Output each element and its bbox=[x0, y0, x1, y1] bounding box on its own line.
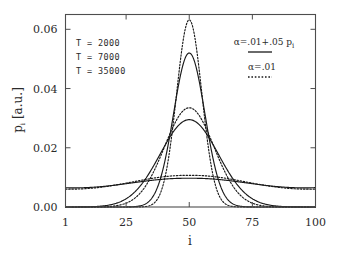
x-tick-label: 25 bbox=[119, 216, 133, 229]
plot-canvas: 0.000.020.040.06 1255075100 pi [a.u.] i … bbox=[0, 0, 345, 256]
annotation-t-7000: T = 7000 bbox=[76, 52, 120, 62]
svg-text:pi [a.u.]: pi [a.u.] bbox=[11, 87, 27, 133]
x-tick-label: 1 bbox=[62, 216, 69, 229]
x-axis-title: i bbox=[188, 234, 192, 248]
temperature-annotation-group: T = 2000 T = 7000 T = 35000 bbox=[76, 38, 126, 76]
x-tick-label: 100 bbox=[305, 216, 326, 229]
figure-container: 0.000.020.040.06 1255075100 pi [a.u.] i … bbox=[0, 0, 345, 256]
y-tick-label: 0.06 bbox=[33, 23, 58, 36]
y-tick-label: 0.02 bbox=[33, 142, 58, 155]
y-axis-title: pi [a.u.] bbox=[11, 87, 27, 133]
annotation-t-2000: T = 2000 bbox=[76, 38, 120, 48]
x-tick-label: 50 bbox=[182, 216, 196, 229]
y-tick-label: 0.04 bbox=[33, 83, 58, 96]
annotation-t-35000: T = 35000 bbox=[76, 66, 126, 76]
y-tick-label: 0.00 bbox=[33, 201, 58, 214]
y-axis-title-unit: [a.u.] bbox=[11, 87, 25, 123]
x-tick-label: 75 bbox=[245, 216, 259, 229]
legend-label-dotted: α=.01 bbox=[248, 62, 276, 72]
